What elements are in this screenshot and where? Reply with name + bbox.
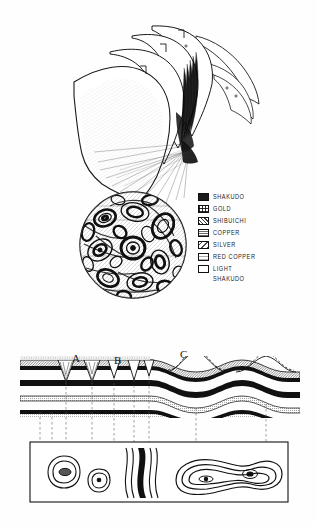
plan-contour-panel [30,442,288,502]
legend-item-gold[interactable]: GOLD [198,204,313,216]
legend-label-copper: COPPER [213,228,240,238]
annotation-b: B [114,354,121,366]
legend-label-shibuichi: SHIBUICHI [213,216,246,226]
swatch-shakudo [198,193,209,201]
metal-legend: SHAKUDO GOLD SHIBUICHI COPPER SILVER RED… [198,192,313,282]
annotation-c: C [180,348,187,360]
legend-label-shakudo: SHAKUDO [213,192,245,202]
annotation-a: A [72,352,80,364]
legend-label-silver: SILVER [213,240,236,250]
legend-item-copper[interactable]: COPPER [198,228,313,240]
legend-item-light-shakudo[interactable]: LIGHT SHAKUDO [198,264,313,282]
swatch-silver [198,241,209,249]
swatch-light-shakudo [198,265,209,273]
legend-label-light-shakudo: LIGHT SHAKUDO [213,264,245,284]
legend-label-gold: GOLD [213,204,231,214]
swatch-shibuichi [198,217,209,225]
mokume-pattern-disc [80,192,186,302]
sheet-stack-panel [74,26,259,203]
cross-section-panel [20,348,300,452]
legend-item-red-copper[interactable]: RED COPPER [198,252,313,264]
swatch-red-copper [198,253,209,261]
legend-item-shakudo[interactable]: SHAKUDO [198,192,313,204]
legend-item-shibuichi[interactable]: SHIBUICHI [198,216,313,228]
swatch-gold [198,205,209,213]
legend-item-silver[interactable]: SILVER [198,240,313,252]
swatch-copper [198,229,209,237]
legend-label-red-copper: RED COPPER [213,252,256,262]
